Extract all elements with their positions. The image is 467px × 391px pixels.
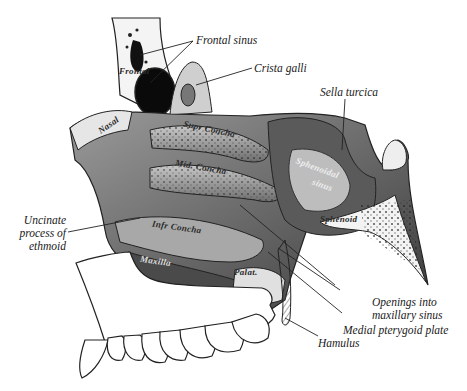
callout-hamulus: Hamulus [318, 337, 360, 350]
label-sphenoid: Sphenoid [320, 214, 357, 224]
callout-openings-maxillary-sinus: Openings into maxillary sinus [372, 296, 443, 322]
label-frontal: Frontal [119, 66, 150, 76]
callout-uncinate-process: Uncinate process of ethmoid [8, 214, 66, 253]
label-palatine: Palat. [234, 267, 258, 277]
callout-frontal-sinus: Frontal sinus [196, 34, 257, 47]
crista-galli [170, 62, 212, 115]
callout-crista-galli: Crista galli [254, 62, 307, 75]
callout-medial-pterygoid-plate: Medial pterygoid plate [343, 324, 448, 337]
nasal-cavity-illustration: Frontal Nasal Supr Concha Mid. Concha In… [0, 0, 467, 391]
callout-sella-turcica: Sella turcica [320, 86, 378, 99]
